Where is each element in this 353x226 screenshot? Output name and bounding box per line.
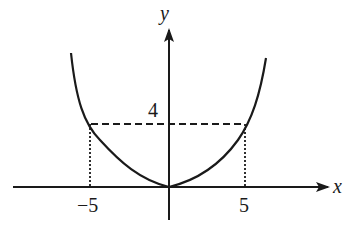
x-axis-label: x (332, 175, 342, 197)
y-axis-label: y (158, 2, 169, 25)
function-graph: y x 4 −5 5 (0, 0, 353, 226)
y-tick-label-4: 4 (148, 99, 158, 121)
x-tick-label-5: 5 (239, 194, 249, 216)
x-tick-label-neg5: −5 (77, 194, 98, 216)
